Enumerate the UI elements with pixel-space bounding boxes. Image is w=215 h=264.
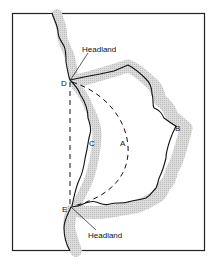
- point-a-label: A: [120, 139, 126, 148]
- point-b-label: B: [175, 124, 180, 133]
- point-e-label: E: [62, 205, 67, 214]
- bay-diagram: Headland Headland D E C A B: [0, 0, 215, 264]
- headland-label-top: Headland: [82, 45, 116, 54]
- point-c-label: C: [89, 139, 95, 148]
- point-d-label: D: [61, 79, 67, 88]
- headland-label-bottom: Headland: [88, 231, 122, 240]
- shore-shading: [57, 14, 186, 251]
